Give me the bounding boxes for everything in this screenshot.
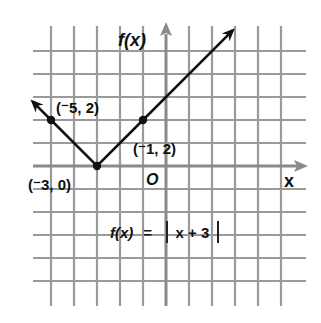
x-axis-label: x	[284, 172, 294, 190]
formula-inner: x + 3	[176, 225, 210, 240]
point-label-neg1-2: (⁻1, 2)	[133, 141, 176, 156]
point-label-neg5-2: (⁻5, 2)	[56, 100, 99, 115]
formula-equals: =	[143, 225, 152, 240]
origin-label: O	[146, 172, 158, 188]
data-point	[47, 116, 55, 124]
graph-canvas	[0, 0, 321, 323]
abs-bar-left	[166, 221, 168, 243]
data-point	[139, 116, 147, 124]
y-axis-arrow-icon	[160, 22, 172, 36]
point-label-neg3-0: (⁻3, 0)	[28, 177, 71, 192]
abs-bar-right	[217, 221, 219, 243]
data-point	[93, 162, 101, 170]
y-axis-label: f(x)	[118, 31, 146, 49]
function-formula: f(x) = x + 3	[110, 221, 223, 243]
formula-lhs: f(x)	[110, 225, 133, 240]
